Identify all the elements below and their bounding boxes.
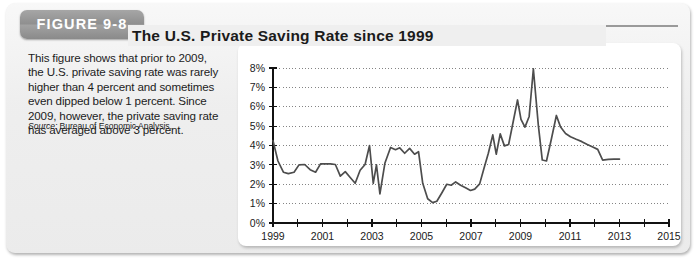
svg-text:2011: 2011 <box>559 230 582 242</box>
svg-text:8%: 8% <box>250 62 265 74</box>
svg-text:3%: 3% <box>250 159 265 171</box>
svg-text:2009: 2009 <box>509 230 533 242</box>
svg-text:2%: 2% <box>250 178 265 190</box>
figure-number-tab: FIGURE 9-8 <box>20 10 144 39</box>
line-chart: 0%1%2%3%4%5%6%7%8% 199920012003200520072… <box>238 43 681 246</box>
svg-text:6%: 6% <box>250 100 265 112</box>
figure-source: Source: Bureau of Economic Analysis. <box>28 121 228 131</box>
source-text: Bureau of Economic Analysis. <box>57 121 172 131</box>
grid-lines <box>273 68 669 204</box>
figure-card: FIGURE 9-8 The U.S. Private Saving Rate … <box>6 3 690 253</box>
svg-text:5%: 5% <box>250 120 265 132</box>
svg-text:4%: 4% <box>250 139 265 151</box>
source-label: Source: <box>28 121 57 131</box>
svg-text:2013: 2013 <box>608 230 632 242</box>
svg-text:2001: 2001 <box>311 230 335 242</box>
svg-text:2015: 2015 <box>657 230 681 242</box>
page-title: The U.S. Private Saving Rate since 1999 <box>128 25 606 46</box>
data-series-saving-rate <box>273 69 620 203</box>
y-axis: 0%1%2%3%4%5%6%7%8% <box>250 62 277 229</box>
svg-text:2007: 2007 <box>459 230 483 242</box>
chart-panel: 0%1%2%3%4%5%6%7%8% 199920012003200520072… <box>238 43 681 246</box>
svg-text:1%: 1% <box>250 197 265 209</box>
svg-text:2005: 2005 <box>410 230 434 242</box>
svg-text:7%: 7% <box>250 81 265 93</box>
svg-text:1999: 1999 <box>261 230 285 242</box>
svg-text:0%: 0% <box>250 217 265 229</box>
svg-text:2003: 2003 <box>360 230 384 242</box>
x-axis: 199920012003200520072009201120132015 <box>261 219 681 242</box>
